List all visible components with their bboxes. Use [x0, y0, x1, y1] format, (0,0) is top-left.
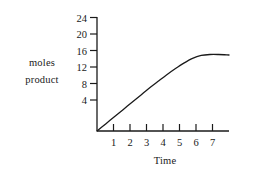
- y-axis-title: moles product: [8, 54, 76, 88]
- line-chart-plot: 24 20 16 12 8 4 1 2 3 4 5 6 7: [0, 0, 275, 180]
- data-series-line: [97, 54, 229, 131]
- y-axis-ticks: [90, 18, 97, 101]
- x-tick-label-6: 6: [193, 137, 198, 148]
- y-tick-label-12: 12: [77, 62, 88, 73]
- x-axis-ticks: [114, 124, 213, 131]
- x-tick-label-7: 7: [210, 137, 215, 148]
- y-tick-label-8: 8: [82, 79, 87, 90]
- y-tick-label-20: 20: [77, 29, 88, 40]
- y-tick-label-4: 4: [82, 95, 88, 106]
- x-tick-label-2: 2: [127, 137, 132, 148]
- y-tick-label-16: 16: [77, 46, 88, 57]
- y-axis-tick-labels: 24 20 16 12 8 4: [77, 13, 88, 107]
- x-axis-tick-labels: 1 2 3 4 5 6 7: [111, 137, 215, 148]
- x-tick-label-3: 3: [144, 137, 149, 148]
- x-axis-title: Time: [130, 155, 200, 166]
- y-axis-title-line-2: product: [8, 71, 76, 88]
- y-tick-label-24: 24: [77, 13, 88, 24]
- y-axis-title-line-1: moles: [8, 54, 76, 71]
- x-tick-label-1: 1: [111, 137, 116, 148]
- chart-figure: 24 20 16 12 8 4 1 2 3 4 5 6 7: [0, 0, 275, 180]
- x-tick-label-5: 5: [177, 137, 182, 148]
- x-tick-label-4: 4: [160, 137, 166, 148]
